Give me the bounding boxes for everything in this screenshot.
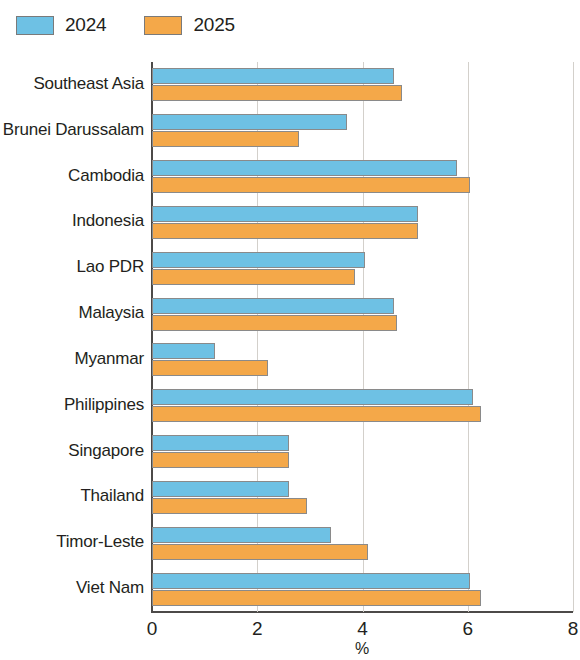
category-label: Philippines <box>0 395 144 415</box>
category-label: Singapore <box>0 441 144 461</box>
bar-group <box>152 566 573 612</box>
bar-group <box>152 154 573 200</box>
bar-2024 <box>152 481 289 497</box>
category-label: Cambodia <box>0 166 144 186</box>
bar-2025 <box>152 131 299 147</box>
bar-2025 <box>152 223 418 239</box>
bar-2025 <box>152 177 470 193</box>
bar-2025 <box>152 498 307 514</box>
bar-2024 <box>152 114 347 130</box>
bar-2024 <box>152 435 289 451</box>
bar-2025 <box>152 452 289 468</box>
category-axis-labels: Southeast AsiaBrunei DarussalamCambodiaI… <box>0 0 144 660</box>
category-label: Timor-Leste <box>0 532 144 552</box>
category-label: Indonesia <box>0 211 144 231</box>
bar-group <box>152 62 573 108</box>
bar-2024 <box>152 160 457 176</box>
bar-2025 <box>152 269 355 285</box>
bar-2024 <box>152 68 394 84</box>
x-tick-label-0: 0 <box>132 618 172 640</box>
bar-group <box>152 245 573 291</box>
bar-2024 <box>152 298 394 314</box>
bar-group <box>152 337 573 383</box>
bar-group <box>152 108 573 154</box>
category-label: Lao PDR <box>0 257 144 277</box>
category-label: Thailand <box>0 486 144 506</box>
bar-group <box>152 200 573 246</box>
bar-group <box>152 429 573 475</box>
category-label: Viet Nam <box>0 578 144 598</box>
category-label: Malaysia <box>0 303 144 323</box>
category-label: Southeast Asia <box>0 74 144 94</box>
bar-2025 <box>152 360 268 376</box>
bar-2024 <box>152 252 365 268</box>
category-label: Myanmar <box>0 349 144 369</box>
bar-group <box>152 383 573 429</box>
bar-2024 <box>152 573 470 589</box>
category-label: Brunei Darussalam <box>0 120 144 140</box>
bar-2024 <box>152 527 331 543</box>
bar-2025 <box>152 85 402 101</box>
bar-2025 <box>152 590 481 606</box>
bar-group <box>152 475 573 521</box>
x-tick-label-4: 4 <box>343 618 383 640</box>
bar-2025 <box>152 315 397 331</box>
bar-2024 <box>152 206 418 222</box>
x-tick-label-2: 2 <box>237 618 277 640</box>
x-axis-title: % <box>355 640 369 658</box>
bar-group <box>152 291 573 337</box>
bar-2024 <box>152 389 473 405</box>
x-tick-label-6: 6 <box>448 618 488 640</box>
bar-chart: Southeast AsiaBrunei DarussalamCambodiaI… <box>0 0 580 660</box>
bar-2025 <box>152 544 368 560</box>
bar-2024 <box>152 343 215 359</box>
bar-2025 <box>152 406 481 422</box>
bar-group <box>152 520 573 566</box>
x-tick-label-8: 8 <box>553 618 580 640</box>
plot-area <box>152 62 573 612</box>
gridline-8 <box>573 62 574 612</box>
